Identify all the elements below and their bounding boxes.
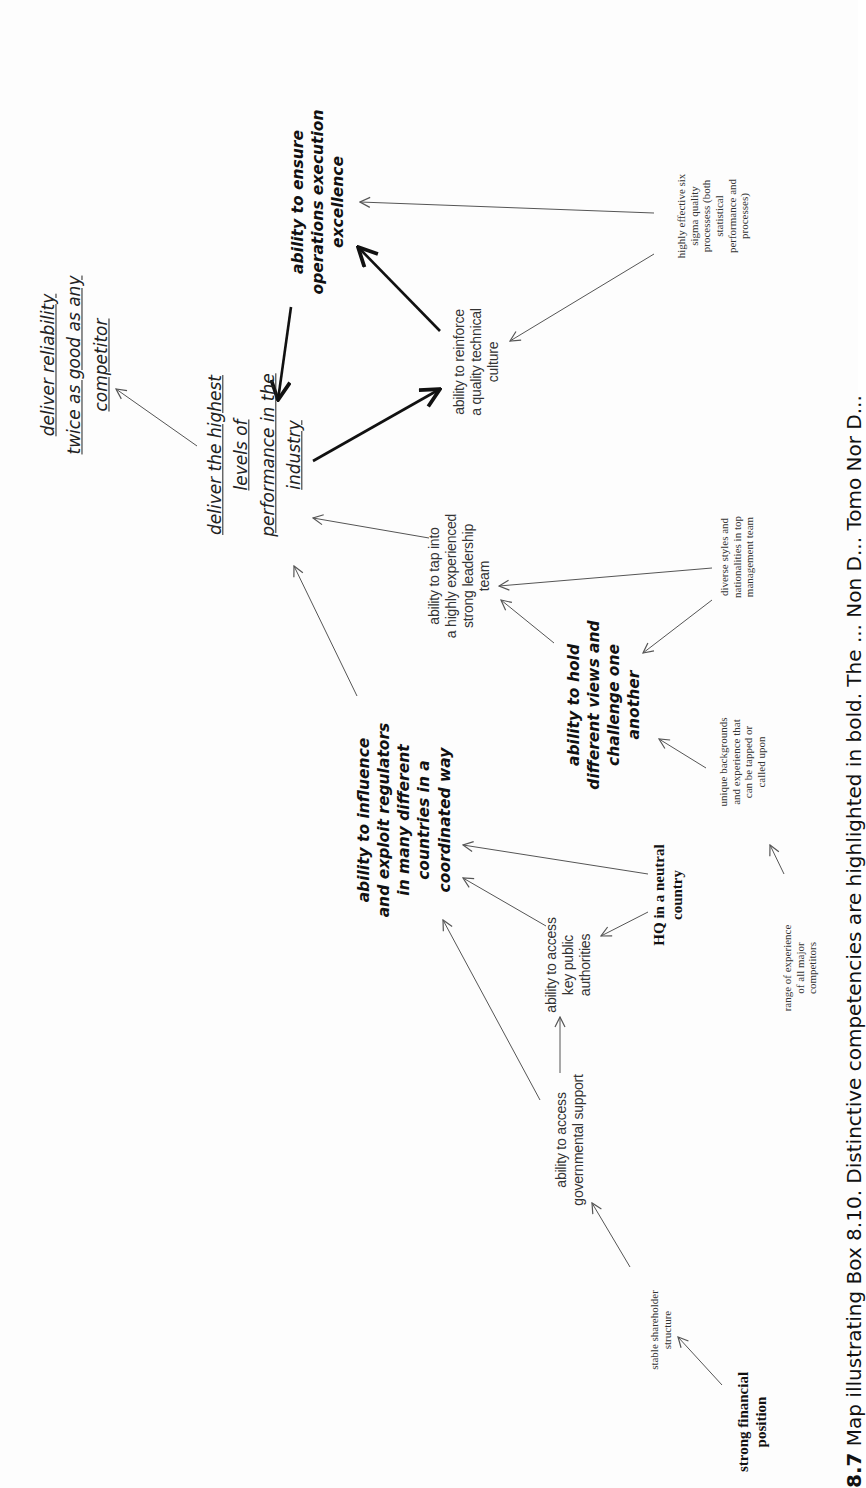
node-hold-different-views: ability to hold different views and chal… — [564, 620, 645, 789]
node-ensure-operations-excellence: ability to ensure operations execution e… — [288, 109, 348, 294]
node-line: strong financial — [734, 1372, 752, 1472]
node-line: ability to hold — [564, 620, 584, 789]
node-line: deliver reliability — [35, 276, 61, 455]
node-line: nationalities in top — [731, 516, 744, 598]
caption-label: 8.7 — [842, 1453, 866, 1488]
node-strong-financial-position: strong financial position — [734, 1372, 770, 1472]
node-deliver-highest-performance: deliver the highest levels of performanc… — [202, 373, 307, 536]
node-access-key-public-authorities: ability to access key public authorities — [543, 917, 593, 1012]
node-line: another — [624, 620, 644, 789]
node-line: country — [668, 844, 686, 945]
edge-governmental-to-influence — [443, 920, 540, 1100]
edge-range-experience-to-unique-backgrounds — [770, 845, 784, 874]
node-line: stable shareholder — [648, 1290, 661, 1370]
node-line: culture — [484, 308, 501, 416]
node-six-sigma-processes: highly effective six sigma quality proce… — [675, 174, 751, 259]
edge-hq-to-key-public — [601, 912, 648, 936]
node-line: and exploit regulators — [374, 723, 394, 918]
node-line: competitor — [88, 276, 114, 455]
edge-diverse-styles-to-tap-leadership — [499, 568, 712, 586]
node-line: HQ in a neutral — [650, 844, 668, 945]
node-line: called upon — [755, 718, 768, 807]
edge-strong-financial-to-stable-shareholder — [678, 1337, 722, 1385]
caption-text: Map illustrating Box 8.10. Distinctive c… — [842, 395, 866, 1446]
node-diverse-styles-nationalities: diverse styles and nationalities in top … — [718, 516, 756, 598]
node-line: different views and — [584, 620, 604, 789]
node-tap-leadership-team: ability to tap into a highly experienced… — [426, 514, 493, 638]
node-line: structure — [661, 1290, 674, 1370]
node-line: governmental support — [570, 1074, 587, 1205]
node-line: industry — [281, 373, 307, 536]
node-line: deliver the highest — [202, 373, 228, 536]
node-hq-neutral-country: HQ in a neutral country — [650, 844, 686, 945]
node-line: competitors — [806, 925, 819, 1012]
node-line: processess (both — [700, 174, 713, 259]
node-line: team — [477, 514, 494, 638]
node-access-governmental-support: ability to access governmental support — [553, 1074, 587, 1205]
node-line: ability to access — [553, 1074, 570, 1205]
edge-hq-to-influence — [463, 845, 648, 874]
node-line: ability to access — [543, 917, 560, 1012]
edge-reinforce-quality-to-ensure-operations — [358, 247, 440, 331]
node-influence-regulators: ability to influence and exploit regulat… — [354, 723, 455, 918]
node-line: key public — [560, 917, 577, 1012]
node-line: a highly experienced — [443, 514, 460, 638]
edge-tap-leadership-to-deliver-highest — [313, 518, 429, 538]
node-unique-backgrounds: unique backgrounds and experience that c… — [717, 718, 768, 807]
edge-influence-to-deliver-highest — [294, 566, 357, 696]
node-line: excellence — [328, 109, 348, 294]
node-line: ability to ensure — [288, 109, 308, 294]
node-line: performance in the — [255, 373, 281, 536]
node-line: authorities — [576, 917, 593, 1012]
node-line: management team — [743, 516, 756, 598]
edge-six-sigma-to-reinforce-quality — [510, 254, 654, 341]
node-line: diverse styles and — [718, 516, 731, 598]
edge-hold-views-to-tap-leadership — [501, 600, 554, 643]
node-line: sigma quality — [688, 174, 701, 259]
node-line: of all major — [794, 925, 807, 1012]
node-deliver-reliability: deliver reliability twice as good as any… — [35, 276, 114, 455]
node-line: challenge one — [604, 620, 624, 789]
node-line: a quality technical — [468, 308, 485, 416]
edge-key-public-to-influence — [463, 878, 546, 926]
edge-unique-backgrounds-to-hold-views — [659, 739, 706, 768]
node-line: levels of — [229, 373, 255, 536]
node-line: ability to influence — [354, 723, 374, 918]
node-line: in many different — [394, 723, 414, 918]
node-line: twice as good as any — [62, 276, 88, 455]
node-line: range of experience — [781, 925, 794, 1012]
node-line: processes) — [738, 174, 751, 259]
node-range-of-experience: range of experience of all major competi… — [781, 925, 819, 1012]
node-line: ability to tap into — [426, 514, 443, 638]
edge-diverse-styles-to-hold-views — [643, 600, 712, 653]
node-line: position — [752, 1372, 770, 1472]
node-line: coordinated way — [434, 723, 454, 918]
node-line: operations execution — [308, 109, 328, 294]
node-line: performance and — [726, 174, 739, 259]
edge-stable-shareholder-to-governmental — [592, 1203, 630, 1267]
node-line: can be tapped or — [742, 718, 755, 807]
node-line: highly effective six — [675, 174, 688, 259]
node-line: strong leadership — [460, 514, 477, 638]
figure-caption: 8.7 Map illustrating Box 8.10. Distincti… — [842, 395, 866, 1488]
node-line: statistical — [713, 174, 726, 259]
edge-six-sigma-to-ensure-operations — [360, 202, 654, 213]
node-line: and experience that — [729, 718, 742, 807]
node-reinforce-quality-culture: ability to reinforce a quality technical… — [451, 308, 501, 416]
node-line: unique backgrounds — [717, 718, 730, 807]
node-line: ability to reinforce — [451, 308, 468, 416]
edge-deliver-highest-to-reinforce-quality — [313, 389, 440, 461]
node-stable-shareholder-structure: stable shareholder structure — [648, 1290, 673, 1370]
node-line: countries in a — [414, 723, 434, 918]
edge-deliver-highest-to-reliability — [116, 389, 197, 446]
